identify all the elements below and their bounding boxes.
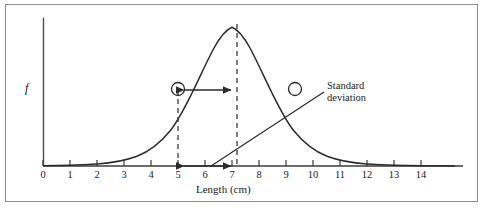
x-tick-label-13: 13 <box>384 169 404 181</box>
x-tick-label-0: 0 <box>33 169 53 181</box>
standard-deviation-annotation: Standard deviation <box>327 80 366 103</box>
x-tick-label-10: 10 <box>303 169 323 181</box>
std-dev-leader-line <box>211 92 324 166</box>
figure-root: f 0 1 2 3 4 5 6 7 8 9 10 11 12 13 14 Len… <box>0 0 485 217</box>
x-tick-label-12: 12 <box>357 169 377 181</box>
x-tick-label-1: 1 <box>60 169 80 181</box>
x-tick-label-7: 7 <box>222 169 242 181</box>
x-tick-label-11: 11 <box>330 169 350 181</box>
y-axis-label: f <box>25 82 28 96</box>
x-tick-label-2: 2 <box>87 169 107 181</box>
x-tick-label-8: 8 <box>249 169 269 181</box>
x-axis-title: Length (cm) <box>196 183 251 195</box>
standard-deviation-annotation-line2: deviation <box>327 92 366 104</box>
normal-distribution-curve <box>43 27 455 166</box>
standard-deviation-annotation-line1: Standard <box>327 80 366 92</box>
x-tick-label-5: 5 <box>168 169 188 181</box>
inflection-right-marker <box>289 83 302 96</box>
x-tick-label-3: 3 <box>114 169 134 181</box>
x-tick-label-14: 14 <box>411 169 431 181</box>
x-tick-label-4: 4 <box>141 169 161 181</box>
x-tick-label-9: 9 <box>276 169 296 181</box>
x-tick-label-6: 6 <box>195 169 215 181</box>
